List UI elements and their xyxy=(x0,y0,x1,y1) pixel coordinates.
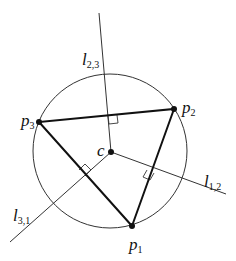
label-p1: p1 xyxy=(128,235,143,255)
label-c: c xyxy=(97,141,105,160)
circumcircle-diagram: l2,3 p3 p2 c l1,2 l3,1 p1 xyxy=(0,0,236,261)
label-p3: p3 xyxy=(20,111,35,131)
label-l31: l3,1 xyxy=(13,206,30,226)
label-p2: p2 xyxy=(181,98,196,118)
bisector-l31 xyxy=(10,152,111,242)
point-c xyxy=(108,149,114,155)
bisector-l23 xyxy=(99,13,111,152)
point-p2 xyxy=(171,106,177,112)
label-l23: l2,3 xyxy=(82,50,99,70)
label-l12: l1,2 xyxy=(204,172,221,192)
point-p1 xyxy=(129,223,135,229)
right-angle-marker-23 xyxy=(108,115,118,124)
point-p3 xyxy=(36,119,42,125)
